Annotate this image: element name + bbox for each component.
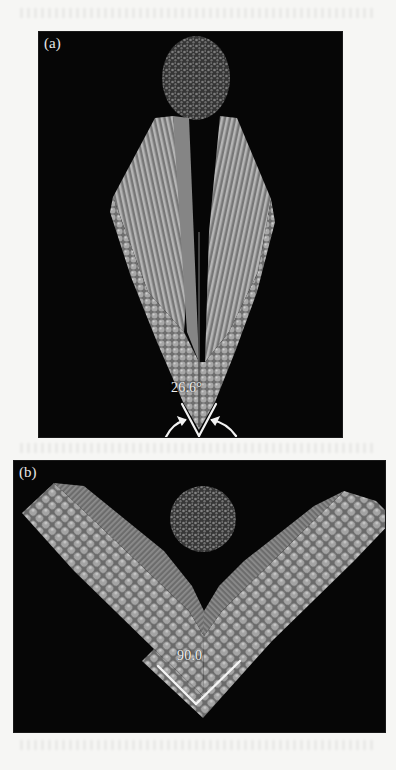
nanocluster	[162, 36, 230, 120]
panel-label-b: (b)	[19, 464, 37, 481]
figure-panel-a: (a) 26.6°	[39, 32, 342, 437]
page-bleed-text	[20, 8, 376, 18]
angle-label-a: 26.6°	[171, 380, 202, 396]
figure-panel-b: (b) 90.0	[14, 461, 385, 732]
page-bleed-text	[20, 740, 376, 750]
nanocluster	[170, 486, 236, 552]
angle-label-b: 90.0	[177, 648, 202, 664]
panel-label-a: (a)	[44, 35, 61, 52]
page-bleed-text	[20, 443, 376, 453]
panel-b-illustration	[14, 461, 385, 732]
panel-a-illustration	[39, 32, 342, 437]
